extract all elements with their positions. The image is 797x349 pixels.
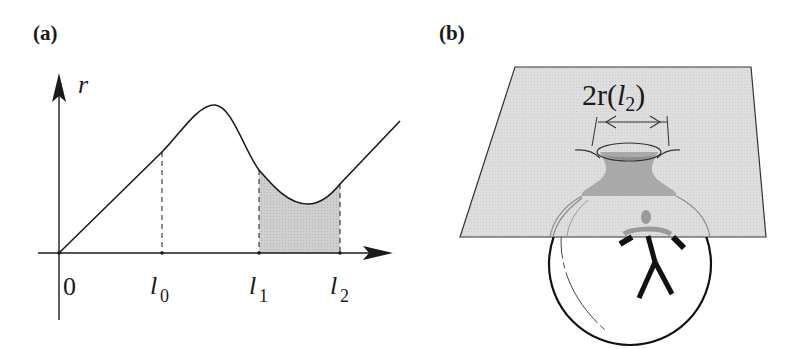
dimension-label: 2r(l2) (582, 78, 645, 115)
origin-label: 0 (63, 272, 76, 301)
figure-right-arm (673, 237, 684, 248)
panel-b: (b) 2r(l2) (439, 21, 766, 345)
figure-head (641, 210, 651, 224)
svg-text:1: 1 (259, 286, 268, 306)
svg-text:2: 2 (340, 286, 349, 306)
figure-torso (648, 236, 655, 262)
panel-a: (a) r 0 l 0 l 1 l 2 (33, 21, 400, 320)
panel-b-label: (b) (439, 21, 465, 45)
svg-text:2r(l2): 2r(l2) (582, 78, 645, 115)
tick-dot-l1 (257, 251, 261, 255)
figure-left-arm (620, 237, 632, 244)
svg-text:l: l (249, 271, 256, 300)
tick-label-l2: l 2 (330, 271, 349, 306)
svg-text:0: 0 (160, 286, 169, 306)
y-axis-label: r (78, 70, 89, 99)
figure-canvas: (a) r 0 l 0 l 1 l 2 (0, 0, 797, 349)
svg-text:l: l (150, 271, 157, 300)
figure-left-leg (639, 262, 655, 298)
tick-dot-l2 (338, 251, 342, 255)
panel-a-label: (a) (33, 21, 58, 45)
svg-text:l: l (330, 271, 337, 300)
curve-r-of-l (59, 105, 400, 253)
figure-right-leg (655, 262, 672, 294)
tick-dot-l0 (160, 251, 164, 255)
tick-label-l1: l 1 (249, 271, 268, 306)
tick-label-l0: l 0 (150, 271, 169, 306)
